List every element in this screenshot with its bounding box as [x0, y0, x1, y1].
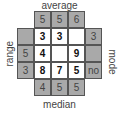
- average-clue-col-3: 6: [68, 11, 85, 28]
- mode-clue-row-2: [85, 45, 102, 62]
- grid-cell-r3c3[interactable]: 5: [68, 62, 85, 79]
- median-clue-col-1: 4: [34, 79, 51, 96]
- average-clue-col-2: 5: [51, 11, 68, 28]
- grid-cell-r2c1[interactable]: 4: [34, 45, 51, 62]
- grid-cell-r1c1[interactable]: 3: [34, 28, 51, 45]
- grid-cell-r2c3[interactable]: 9: [68, 45, 85, 62]
- grid-cell-r1c2[interactable]: 3: [51, 28, 68, 45]
- median-label: median: [34, 100, 85, 110]
- median-clue-col-3: 5: [68, 79, 85, 96]
- mode-clue-row-1: 3: [85, 28, 102, 45]
- grid-cell-r3c1[interactable]: 8: [34, 62, 51, 79]
- average-label: average: [34, 1, 85, 11]
- mode-label: mode: [107, 50, 117, 67]
- range-clue-row-2: 5: [17, 45, 34, 62]
- range-clue-row-1: [17, 28, 34, 45]
- grid-cell-r3c2[interactable]: 7: [51, 62, 68, 79]
- grid-cell-r1c3[interactable]: [68, 28, 85, 45]
- range-clue-row-3: 3: [17, 62, 34, 79]
- median-clue-col-2: 5: [51, 79, 68, 96]
- mode-clue-row-3: no: [85, 62, 102, 79]
- range-label: range: [5, 50, 15, 67]
- grid-cell-r2c2[interactable]: [51, 45, 68, 62]
- average-clue-col-1: 5: [34, 11, 51, 28]
